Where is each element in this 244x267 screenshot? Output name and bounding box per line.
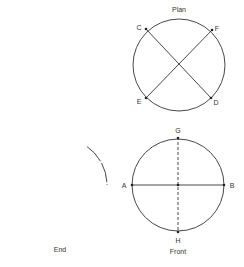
label-h: H [175, 237, 180, 244]
front-view: A B G H Front [122, 127, 235, 255]
point-e-marker [145, 97, 148, 100]
label-a: A [122, 182, 127, 189]
label-d: D [213, 99, 218, 106]
point-f-marker [211, 29, 214, 32]
label-e: E [137, 98, 142, 105]
label-b: B [230, 182, 235, 189]
plan-line-fe [146, 30, 212, 98]
diagram-svg: Plan C F E D End A B G H Front [0, 0, 244, 267]
end-title: End [54, 246, 67, 253]
point-a-marker [131, 184, 134, 187]
point-g-marker [177, 137, 180, 140]
end-view: End [13, 138, 107, 253]
plan-view: Plan C F E D [133, 6, 225, 111]
label-c: C [136, 24, 141, 31]
front-center-marker [177, 184, 180, 187]
point-h-marker [177, 231, 180, 234]
point-d-marker [210, 97, 213, 100]
label-f: F [215, 25, 219, 32]
end-circle [13, 138, 107, 232]
point-c-marker [145, 28, 148, 31]
front-title: Front [170, 248, 186, 255]
label-g: G [175, 127, 180, 134]
plan-title: Plan [172, 6, 186, 13]
orthographic-views-diagram: Plan C F E D End A B G H Front [0, 0, 244, 267]
point-b-marker [223, 184, 226, 187]
